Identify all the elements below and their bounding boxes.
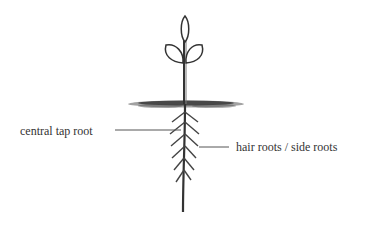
side-roots — [170, 112, 199, 182]
left-leaf — [165, 45, 183, 63]
bud — [181, 16, 189, 42]
label-hair-roots: hair roots / side roots — [236, 140, 337, 155]
label-central-tap-root: central tap root — [20, 124, 93, 139]
seedling-illustration — [0, 0, 371, 227]
right-leaf — [186, 45, 203, 63]
